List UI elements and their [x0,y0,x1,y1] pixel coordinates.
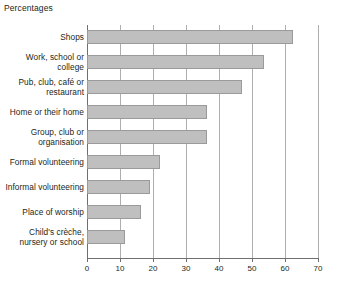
x-tick-label-20: 20 [149,264,158,274]
x-tick-mark-60 [285,258,286,262]
y-axis-tick-label: Group, club or organisation [0,127,84,148]
bar [87,205,141,219]
bar [87,130,207,144]
bar-row [87,25,318,50]
bar-row [87,150,318,175]
x-tick-label-60: 60 [281,264,290,274]
bar-row [87,100,318,125]
x-tick-label-30: 30 [182,264,191,274]
bar-row [87,50,318,75]
x-tick-label-50: 50 [248,264,257,274]
bar-row [87,200,318,225]
y-axis-tick-label: Home or their home [0,107,84,118]
y-axis-tick-label: Shops [0,32,84,43]
x-tick-label-10: 10 [116,264,125,274]
x-tick-mark-30 [186,258,187,262]
plot-area [87,25,318,258]
bar [87,230,125,244]
bar [87,105,207,119]
x-tick-mark-10 [120,258,121,262]
x-tick-mark-20 [153,258,154,262]
bar [87,30,293,44]
x-tick-mark-40 [219,258,220,262]
x-tick-label-40: 40 [215,264,224,274]
bar-row [87,175,318,200]
gridline-70 [318,25,319,258]
y-axis-tick-label: Pub, club, café or restaurant [0,77,84,98]
page-title: Percentages [4,3,53,14]
y-axis-labels: ShopsWork, school or collegePub, club, c… [0,25,84,258]
x-tick-label-70: 70 [314,264,323,274]
bar [87,80,242,94]
x-tick-mark-70 [318,258,319,262]
y-axis-tick-label: Place of worship [0,207,84,218]
bar [87,55,264,69]
bar-row [87,75,318,100]
x-tick-mark-50 [252,258,253,262]
bar-row [87,225,318,250]
chart-page: Percentages ShopsWork, school or college… [0,0,337,282]
y-axis-tick-label: Informal volunteering [0,182,84,193]
x-tick-mark-0 [87,258,88,262]
bar [87,180,150,194]
bar-row [87,125,318,150]
bar [87,155,160,169]
x-tick-label-0: 0 [85,264,89,274]
y-axis-tick-label: Work, school or college [0,52,84,73]
y-axis-tick-label: Formal volunteering [0,157,84,168]
y-axis-tick-label: Child's crèche, nursery or school [0,227,84,248]
